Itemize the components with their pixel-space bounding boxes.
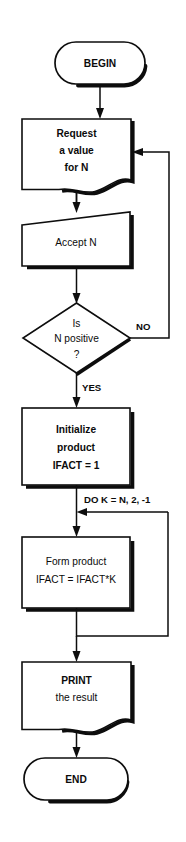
form-product-line-1: Form product <box>46 556 107 567</box>
decision-line-3: ? <box>74 349 80 360</box>
connector-yes: YES <box>73 373 102 408</box>
connector-no-feedback: NO <box>130 148 169 338</box>
arrowhead-icon <box>73 526 81 537</box>
connector-loop-return-arrow <box>77 508 169 516</box>
arrowhead-icon <box>77 508 88 516</box>
end-label: END <box>65 774 87 785</box>
connector-to-print <box>73 636 81 662</box>
edge-label-yes: YES <box>82 382 102 393</box>
node-begin[interactable]: BEGIN <box>55 42 146 86</box>
node-decision[interactable]: Is N positive ? <box>23 303 130 375</box>
node-initialize[interactable]: Initialize product IFACT = 1 <box>22 408 133 487</box>
node-end[interactable]: END <box>24 758 128 802</box>
initialize-line-2: product <box>57 442 96 453</box>
form-product-shape <box>22 537 130 608</box>
node-form-product[interactable]: Form product IFACT = IFACT*K <box>22 537 133 610</box>
connector-begin-to-request <box>96 84 104 119</box>
begin-label: BEGIN <box>84 58 116 69</box>
arrowhead-icon <box>96 108 104 119</box>
print-line-2: the result <box>56 692 98 703</box>
node-request[interactable]: Request a value for N <box>22 119 133 194</box>
arrowhead-icon <box>73 747 81 758</box>
initialize-line-1: Initialize <box>56 424 97 435</box>
arrowhead-icon <box>73 397 81 408</box>
accept-label: Accept N <box>55 237 96 248</box>
node-print[interactable]: PRINT the result <box>22 662 133 734</box>
flowchart-canvas: BEGIN Request a value for N Accept N <box>0 0 186 842</box>
node-accept[interactable]: Accept N <box>22 212 132 268</box>
request-line-2: a value <box>59 145 94 156</box>
request-line-1: Request <box>56 128 97 139</box>
connector-print-to-end <box>73 730 81 758</box>
initialize-line-3: IFACT = 1 <box>53 460 100 471</box>
decision-line-2: N positive <box>54 333 99 344</box>
print-line-1: PRINT <box>61 675 92 686</box>
arrowhead-icon <box>73 202 81 213</box>
flowchart-page: BEGIN Request a value for N Accept N <box>0 0 186 842</box>
edge-label-no: NO <box>136 321 151 332</box>
form-product-line-2: IFACT = IFACT*K <box>36 574 116 585</box>
request-line-3: for N <box>65 162 89 173</box>
decision-line-1: Is <box>73 318 81 329</box>
arrowhead-icon <box>73 651 81 662</box>
connector-accept-to-decision <box>73 266 81 304</box>
edge-label-do-loop: DO K = N, 2, -1 <box>84 494 151 505</box>
